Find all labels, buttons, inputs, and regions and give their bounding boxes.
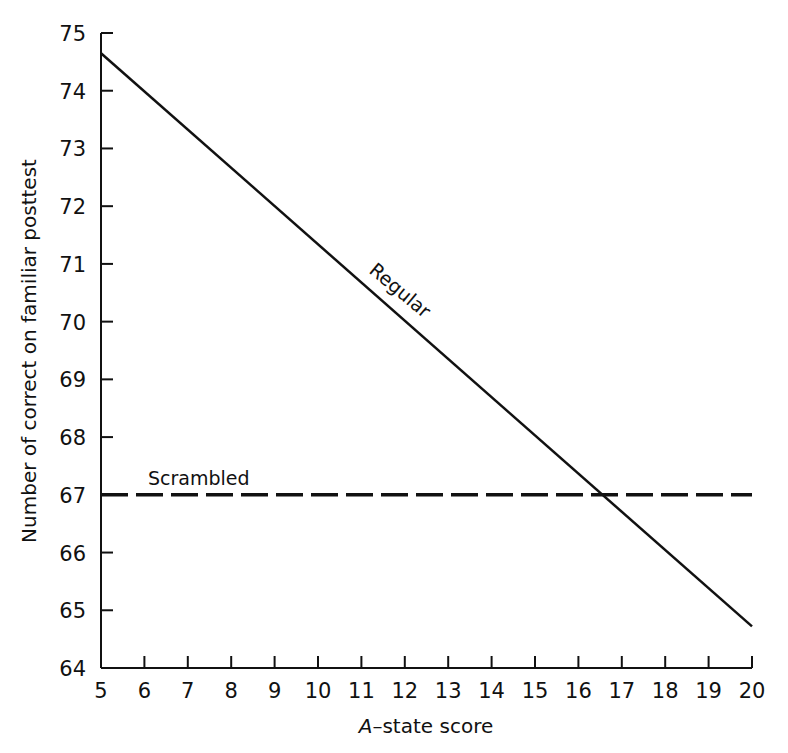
x-axis-title-italic: A bbox=[357, 714, 373, 738]
y-tick-label: 64 bbox=[59, 657, 86, 681]
x-tick-label: 18 bbox=[652, 679, 679, 703]
x-tick-label: 6 bbox=[138, 679, 151, 703]
series-label-scrambled: Scrambled bbox=[148, 467, 250, 489]
x-axis-title-rest: –state score bbox=[372, 714, 493, 738]
x-tick-label: 19 bbox=[695, 679, 722, 703]
y-tick-label: 65 bbox=[59, 599, 86, 623]
y-tick-label: 72 bbox=[59, 195, 86, 219]
x-tick-label: 20 bbox=[739, 679, 766, 703]
series-label-regular: Regular bbox=[365, 258, 435, 322]
x-tick-label: 9 bbox=[268, 679, 281, 703]
x-tick-label: 11 bbox=[348, 679, 375, 703]
x-tick-label: 7 bbox=[181, 679, 194, 703]
y-tick-label: 69 bbox=[59, 368, 86, 392]
x-axis-title: A–state score bbox=[357, 714, 493, 738]
y-tick-label: 75 bbox=[59, 22, 86, 46]
x-axis: 567891011121314151617181920 bbox=[94, 656, 765, 703]
y-tick-label: 66 bbox=[59, 542, 86, 566]
y-axis-title: Number of correct on familiar posttest bbox=[17, 159, 41, 543]
series-lines bbox=[101, 53, 752, 626]
y-tick-label: 74 bbox=[59, 80, 86, 104]
y-tick-label: 68 bbox=[59, 426, 86, 450]
line-chart: 646566676869707172737475 567891011121314… bbox=[0, 0, 788, 753]
x-tick-label: 15 bbox=[522, 679, 549, 703]
y-axis: 646566676869707172737475 bbox=[59, 22, 113, 681]
x-tick-label: 12 bbox=[391, 679, 418, 703]
y-tick-label: 70 bbox=[59, 311, 86, 335]
x-tick-label: 5 bbox=[94, 679, 107, 703]
x-tick-label: 14 bbox=[478, 679, 505, 703]
series-line-regular bbox=[101, 53, 752, 626]
x-tick-label: 17 bbox=[608, 679, 635, 703]
x-tick-label: 16 bbox=[565, 679, 592, 703]
x-tick-label: 10 bbox=[305, 679, 332, 703]
x-tick-label: 8 bbox=[225, 679, 238, 703]
y-tick-label: 71 bbox=[59, 253, 86, 277]
y-tick-label: 73 bbox=[59, 137, 86, 161]
y-tick-label: 67 bbox=[59, 484, 86, 508]
x-tick-label: 13 bbox=[435, 679, 462, 703]
